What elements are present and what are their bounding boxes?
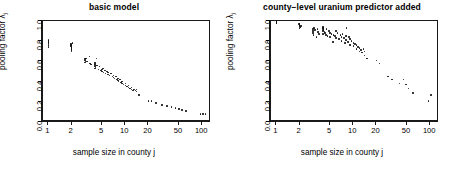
data-point	[360, 49, 362, 51]
data-point	[349, 44, 351, 46]
chart-title: county−level uranium predictor added	[228, 2, 456, 12]
data-point	[342, 33, 344, 35]
data-point	[94, 62, 96, 64]
data-point	[335, 37, 337, 39]
data-point	[366, 58, 368, 60]
data-point	[48, 46, 50, 48]
data-point	[361, 52, 363, 54]
x-axis-tick	[124, 121, 125, 125]
data-point	[318, 33, 320, 35]
data-point	[276, 22, 278, 24]
data-point	[405, 84, 407, 86]
y-axis-title: pooling factor λj	[0, 13, 8, 70]
data-point	[200, 113, 202, 115]
x-axis-tick-label: 20	[371, 126, 379, 135]
chart-title: basic model	[0, 2, 228, 12]
x-axis-tick	[375, 121, 376, 125]
data-point	[345, 35, 347, 37]
x-axis-tick	[101, 121, 102, 125]
data-point	[337, 32, 339, 34]
plot-area	[270, 20, 438, 121]
data-point	[313, 34, 315, 36]
scatter-points	[43, 21, 209, 120]
data-point	[399, 83, 401, 85]
x-axis-tick	[147, 121, 148, 125]
x-axis-tick	[201, 121, 202, 125]
data-point	[344, 42, 346, 44]
x-axis-tick	[47, 121, 48, 125]
data-point	[171, 106, 173, 108]
data-point	[376, 60, 378, 62]
x-axis-tick-label: 100	[195, 126, 208, 135]
x-axis-title: sample size in county j	[0, 148, 228, 157]
data-point	[109, 75, 111, 77]
data-point	[118, 81, 120, 83]
data-point	[86, 61, 88, 63]
x-axis-tick-label: 1	[273, 126, 277, 135]
data-point	[72, 42, 74, 44]
data-point	[391, 79, 393, 81]
data-point	[317, 28, 319, 30]
x-axis-tick-label: 50	[174, 126, 182, 135]
data-point	[166, 105, 168, 107]
x-axis-line	[270, 121, 438, 122]
y-axis-title: pooling factor λj	[226, 13, 236, 70]
data-point	[102, 68, 104, 70]
scatter-points	[271, 21, 437, 120]
data-point	[353, 45, 355, 47]
data-point	[202, 113, 204, 115]
data-point	[161, 104, 163, 106]
data-point	[104, 70, 106, 72]
x-axis-line	[42, 121, 210, 122]
data-point	[428, 100, 430, 102]
x-axis-tick-label: 2	[296, 126, 300, 135]
data-point	[94, 68, 96, 70]
x-axis-tick-label: 1	[45, 126, 49, 135]
data-point	[322, 33, 324, 35]
x-axis-right: 125102050100	[270, 121, 438, 126]
x-axis-tick-label: 10	[120, 126, 128, 135]
x-axis-tick-label: 5	[99, 126, 103, 135]
data-point	[430, 94, 432, 96]
y-axis-title-subscript: j	[2, 13, 8, 14]
data-point	[96, 58, 98, 60]
data-point	[155, 102, 157, 104]
data-point	[105, 73, 107, 75]
data-point	[138, 94, 140, 96]
data-point	[412, 92, 414, 94]
x-axis-tick	[429, 121, 430, 125]
x-axis-tick	[299, 121, 300, 125]
data-point	[85, 58, 87, 60]
data-point	[332, 41, 334, 43]
figure-panel-pair: basic model pooling factor λj 0.00.20.40…	[0, 0, 456, 173]
data-point	[356, 48, 358, 50]
data-point	[347, 41, 349, 43]
x-axis-tick	[329, 121, 330, 125]
data-point	[316, 36, 318, 38]
data-point	[387, 76, 389, 78]
x-axis-tick-label: 100	[423, 126, 436, 135]
data-point	[175, 107, 177, 109]
data-point	[114, 78, 116, 80]
data-point	[96, 65, 98, 67]
x-axis-tick	[352, 121, 353, 125]
chart-panel-uranium-model: county−level uranium predictor added poo…	[228, 0, 456, 173]
x-axis-tick-label: 50	[402, 126, 410, 135]
data-point	[322, 26, 324, 28]
x-axis-tick	[178, 121, 179, 125]
x-axis-tick-label: 5	[327, 126, 331, 135]
data-point	[300, 25, 302, 27]
data-point	[341, 36, 343, 38]
y-axis-title-text: pooling factor	[0, 19, 7, 70]
data-point	[329, 36, 331, 38]
data-point	[403, 79, 405, 81]
data-point	[364, 55, 366, 57]
data-point	[379, 63, 381, 65]
data-point	[151, 100, 153, 102]
x-axis-left: 125102050100	[42, 121, 210, 126]
data-point	[338, 38, 340, 40]
data-point	[132, 90, 134, 92]
data-point	[327, 35, 329, 37]
data-point	[110, 73, 112, 75]
data-point	[148, 100, 150, 102]
